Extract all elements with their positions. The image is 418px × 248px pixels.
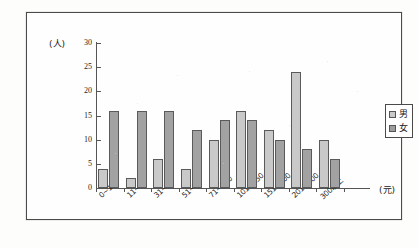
bar-male-1 [126,178,136,188]
bar-female-5 [247,120,257,188]
y-tick-label-10: 10 [68,136,92,144]
scan-artifact-7 [357,91,358,92]
bar-male-5 [236,111,246,188]
female-swatch-icon [389,125,396,132]
bar-female-3 [192,130,202,188]
chart-legend: 男 女 [385,104,413,138]
legend-label-male: 男 [399,110,408,119]
y-tick-label-20: 20 [68,87,92,95]
scan-artifact-6 [115,153,116,154]
y-tick-label-15: 15 [68,112,92,120]
chart-frame: (人) (元) 051015202530 0~1011~3031~5051~70… [26,12,402,220]
chart-page: (人) (元) 051015202530 0~1011~3031~5051~70… [0,0,418,248]
scan-artifact-0 [177,75,178,76]
bar-male-4 [209,140,219,188]
scan-artifact-2 [327,61,328,62]
y-tick-label-25: 25 [68,63,92,71]
y-tick-label-0: 0 [68,184,92,192]
x-tick-2 [179,188,180,192]
bar-female-2 [164,111,174,188]
legend-item-male: 男 [389,107,408,121]
bar-female-7 [302,149,312,188]
bar-male-6 [264,130,274,188]
scan-artifact-4 [289,125,290,126]
x-tick-4 [234,188,235,192]
y-tick-label-5: 5 [68,160,92,168]
y-axis-unit-label: (人) [49,37,65,50]
scan-artifact-5 [223,163,224,164]
bar-male-8 [319,140,329,188]
y-tick-label-30: 30 [68,39,92,47]
x-tick-0 [124,188,125,192]
bar-female-1 [137,111,147,188]
bar-female-4 [220,120,230,188]
scan-artifact-1 [249,71,250,72]
bar-male-7 [291,72,301,188]
bar-male-2 [153,159,163,188]
scan-artifact-3 [137,103,138,104]
x-tick-8 [344,188,345,192]
bar-male-3 [181,169,191,188]
legend-label-female: 女 [399,124,408,133]
bar-female-6 [275,140,285,188]
bar-male-0 [98,169,108,188]
legend-item-female: 女 [389,121,408,135]
x-axis-unit-label: (元) [379,183,395,196]
bar-female-8 [330,159,340,188]
bar-female-0 [109,111,119,188]
male-swatch-icon [389,111,396,118]
